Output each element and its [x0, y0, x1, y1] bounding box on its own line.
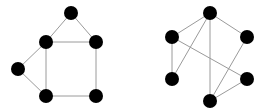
node-f [89, 89, 103, 103]
node-b [165, 30, 179, 44]
left-graph [11, 6, 103, 103]
edge-a-d [172, 13, 210, 79]
node-d [165, 72, 179, 86]
node-a [203, 6, 217, 20]
node-f [203, 94, 217, 108]
node-c [89, 35, 103, 49]
node-b [39, 35, 53, 49]
edge-c-f [210, 37, 247, 101]
node-d [11, 62, 25, 76]
node-e [240, 72, 254, 86]
node-a [64, 6, 78, 20]
right-graph [165, 6, 254, 108]
node-e [39, 89, 53, 103]
graph-diagram [0, 0, 267, 108]
node-c [240, 30, 254, 44]
